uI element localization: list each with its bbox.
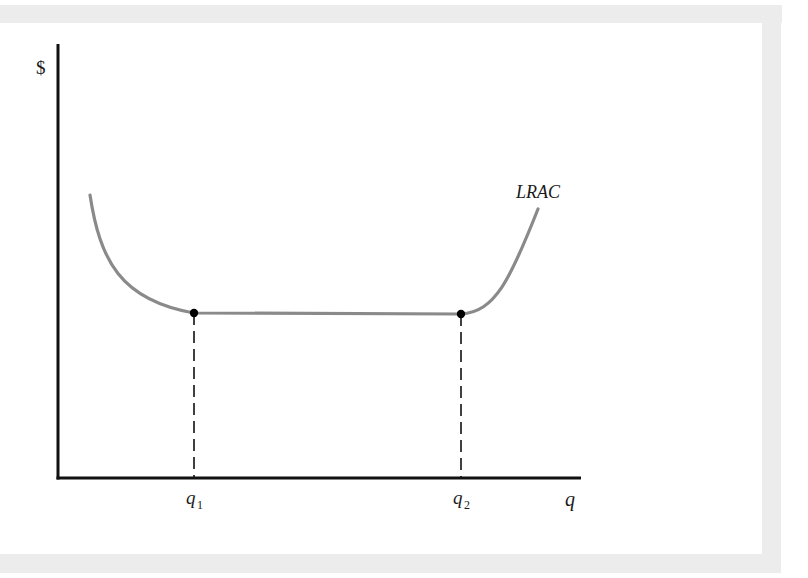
- q1-label-base: q: [186, 487, 196, 508]
- q2-point: [457, 310, 465, 318]
- q2-label-subscript: 2: [464, 498, 470, 512]
- x-axis-label: q: [565, 488, 575, 511]
- q1-label: q 1: [186, 487, 203, 512]
- q1-label-subscript: 1: [197, 498, 203, 512]
- q2-label-base: q: [453, 487, 463, 508]
- lrac-label: LRAC: [515, 182, 561, 202]
- q2-label: q 2: [453, 487, 470, 512]
- lrac-curve: [90, 195, 538, 314]
- q1-point: [190, 309, 198, 317]
- lrac-diagram: $ LRAC q q 1 q 2: [0, 0, 808, 578]
- y-axis-label: $: [36, 57, 46, 78]
